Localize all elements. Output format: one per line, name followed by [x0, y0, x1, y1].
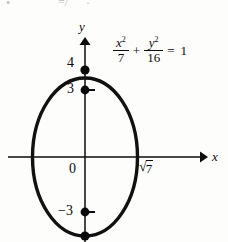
- tick-label-4: 4: [67, 56, 74, 70]
- denominator-7: 7: [115, 51, 128, 65]
- tick-label-3: 3: [67, 82, 74, 96]
- numerator-y-squared: y2: [146, 36, 162, 50]
- radicand-7: 7: [146, 160, 154, 175]
- radical-group: √ 7: [139, 160, 153, 175]
- fraction-x-squared-over-7: x2 7: [113, 36, 129, 65]
- equals-operator: =: [167, 43, 174, 59]
- plus-operator: +: [133, 43, 140, 59]
- ellipse-graph-figure: • =/ · y x 4 3 −3 0 √ 7: [0, 0, 228, 242]
- origin-label: 0: [69, 162, 76, 176]
- x-intercept-label-sqrt7: √ 7: [139, 160, 153, 175]
- denominator-16: 16: [144, 51, 163, 65]
- exponent-y: 2: [155, 35, 159, 44]
- point-vertex-bottom: [80, 231, 89, 240]
- exponent-x: 2: [122, 35, 126, 44]
- ellipse-equation: x2 7 + y2 16 = 1: [112, 36, 187, 65]
- numerator-x-squared: x2: [113, 36, 129, 50]
- point-focus-lower: [81, 208, 90, 217]
- tick-label-negative-3: −3: [58, 204, 73, 218]
- right-hand-side-1: 1: [180, 43, 187, 59]
- point-focus-upper: [81, 86, 90, 95]
- y-axis-label: y: [79, 20, 85, 33]
- x-axis-arrowhead: [200, 152, 208, 163]
- y-axis-arrowhead: [80, 37, 91, 45]
- x-axis-label: x: [212, 150, 218, 163]
- fraction-y-squared-over-16: y2 16: [144, 36, 163, 65]
- point-vertex-top: [80, 65, 89, 74]
